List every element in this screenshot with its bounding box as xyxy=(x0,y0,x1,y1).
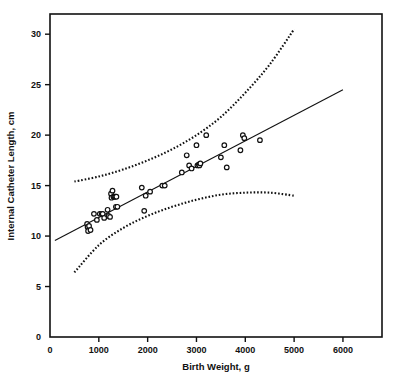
data-point xyxy=(194,143,199,148)
x-tick-label: 3000 xyxy=(186,345,206,355)
y-tick-label: 20 xyxy=(31,130,41,140)
data-point xyxy=(198,161,203,166)
y-tick-label: 30 xyxy=(31,29,41,39)
data-point xyxy=(142,209,147,214)
data-point xyxy=(189,166,194,171)
y-tick-label: 15 xyxy=(31,181,41,191)
y-axis-title: Internal Catheter Length, cm xyxy=(5,112,16,241)
data-point xyxy=(114,194,119,199)
data-point xyxy=(139,185,144,190)
data-point xyxy=(162,183,167,188)
data-point xyxy=(110,188,115,193)
y-tick-label: 25 xyxy=(31,80,41,90)
y-tick-label: 10 xyxy=(31,231,41,241)
data-point xyxy=(88,228,93,233)
chart-background xyxy=(0,0,396,377)
x-tick-label: 6000 xyxy=(333,345,353,355)
data-point xyxy=(224,165,229,170)
chart-canvas: 051015202530 0100020003000400050006000 B… xyxy=(0,0,396,377)
data-point xyxy=(219,155,224,160)
data-point xyxy=(143,193,148,198)
data-point xyxy=(148,189,153,194)
data-point xyxy=(108,215,113,220)
x-tick-label: 2000 xyxy=(138,345,158,355)
data-point xyxy=(180,170,185,175)
data-point xyxy=(204,133,209,138)
y-tick-label: 5 xyxy=(36,282,41,292)
x-tick-label: 1000 xyxy=(89,345,109,355)
x-tick-label: 4000 xyxy=(235,345,255,355)
data-point xyxy=(222,143,227,148)
data-point xyxy=(105,208,110,213)
x-tick-label: 5000 xyxy=(284,345,304,355)
data-point xyxy=(242,136,247,141)
x-tick-label: 0 xyxy=(47,345,52,355)
data-point xyxy=(184,153,189,158)
y-tick-label: 0 xyxy=(36,332,41,342)
scatter-plot-figure: 051015202530 0100020003000400050006000 B… xyxy=(0,0,396,377)
x-axis-title: Birth Weight, g xyxy=(182,361,250,372)
data-point xyxy=(115,204,120,209)
data-point xyxy=(95,218,100,223)
data-point xyxy=(258,138,263,143)
data-point xyxy=(92,212,97,217)
data-point xyxy=(238,148,243,153)
